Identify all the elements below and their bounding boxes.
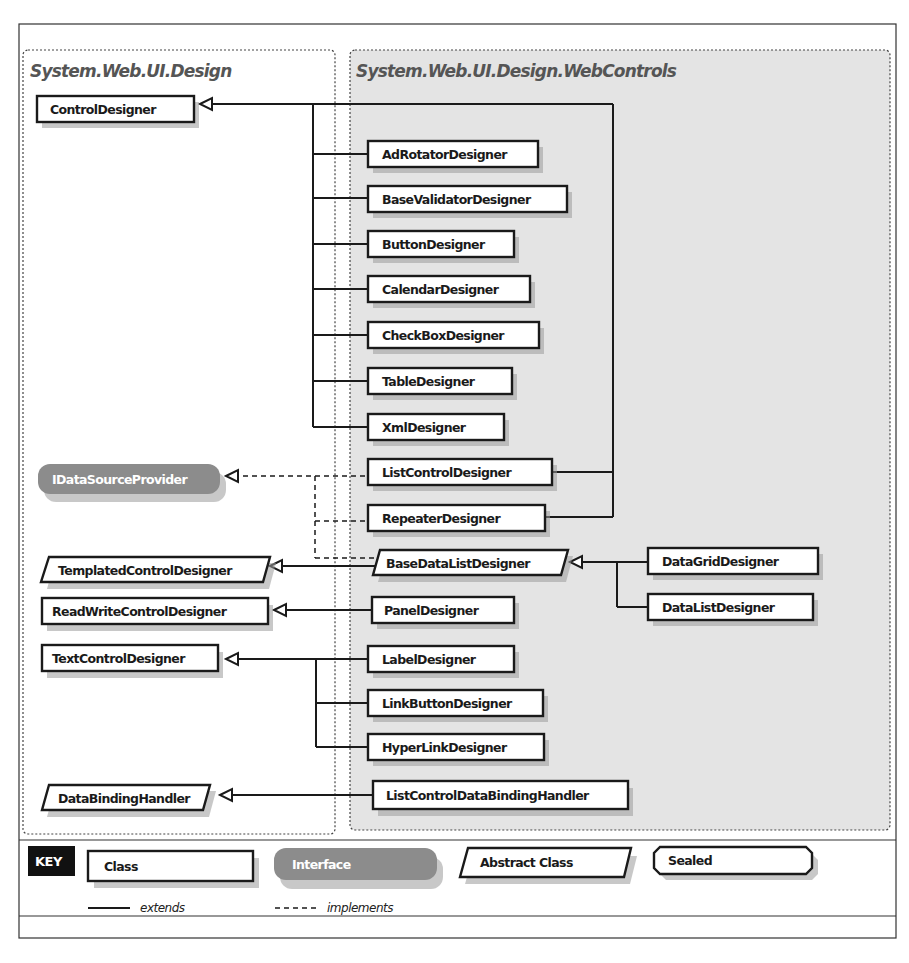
class-calendar-designer: CalendarDesigner	[368, 276, 535, 308]
svg-text:TemplatedControlDesigner: TemplatedControlDesigner	[58, 563, 233, 578]
class-button-designer: ButtonDesigner	[368, 231, 519, 263]
class-data-list-designer: DataListDesigner	[648, 594, 818, 626]
svg-text:Sealed: Sealed	[668, 853, 712, 868]
class-base-validator-designer: BaseValidatorDesigner	[368, 186, 572, 218]
svg-text:LinkButtonDesigner: LinkButtonDesigner	[382, 696, 513, 711]
svg-text:BaseDataListDesigner: BaseDataListDesigner	[386, 556, 531, 571]
package-left-title: System.Web.UI.Design	[30, 61, 232, 81]
svg-text:CheckBoxDesigner: CheckBoxDesigner	[382, 328, 505, 343]
svg-text:PanelDesigner: PanelDesigner	[384, 603, 480, 618]
class-label-designer: LabelDesigner	[368, 646, 519, 678]
svg-text:CalendarDesigner: CalendarDesigner	[382, 282, 500, 297]
svg-text:RepeaterDesigner: RepeaterDesigner	[382, 511, 501, 526]
svg-text:DataBindingHandler: DataBindingHandler	[58, 791, 191, 806]
class-hyperlink-designer: HyperLinkDesigner	[368, 734, 549, 766]
package-right-title: System.Web.UI.Design.WebControls	[356, 61, 677, 81]
class-link-button-designer: LinkButtonDesigner	[368, 690, 548, 722]
class-list-control-data-binding-handler: ListControlDataBindingHandler	[373, 781, 633, 816]
abstract-class-data-binding-handler: DataBindingHandler	[42, 785, 216, 817]
legend-abstract-class: Abstract Class	[460, 848, 637, 884]
svg-text:LabelDesigner: LabelDesigner	[382, 652, 477, 667]
legend-sealed: Sealed	[654, 847, 818, 880]
class-text-control-designer: TextControlDesigner	[42, 645, 223, 678]
class-xml-designer: XmlDesigner	[368, 414, 509, 446]
legend-interface: Interface	[274, 848, 443, 889]
svg-text:Interface: Interface	[292, 857, 351, 872]
svg-text:ControlDesigner: ControlDesigner	[50, 102, 157, 117]
abstract-class-base-data-list-designer: BaseDataListDesigner	[373, 550, 573, 582]
legend-extends-label: extends	[140, 901, 185, 915]
svg-text:IDataSourceProvider: IDataSourceProvider	[52, 472, 188, 487]
svg-text:TableDesigner: TableDesigner	[382, 374, 476, 389]
svg-text:BaseValidatorDesigner: BaseValidatorDesigner	[382, 192, 532, 207]
class-ad-rotator-designer: AdRotatorDesigner	[368, 141, 543, 173]
svg-text:Abstract Class: Abstract Class	[480, 855, 573, 870]
class-list-control-designer: ListControlDesigner	[368, 459, 557, 491]
svg-text:DataListDesigner: DataListDesigner	[662, 600, 776, 615]
legend-class: Class	[88, 851, 259, 888]
class-panel-designer: PanelDesigner	[372, 597, 519, 629]
svg-text:ReadWriteControlDesigner: ReadWriteControlDesigner	[52, 604, 228, 619]
key-title: KEY	[35, 854, 63, 869]
class-hierarchy-diagram: System.Web.UI.Design System.Web.UI.Desig…	[0, 0, 909, 963]
interface-idatasource-provider: IDataSourceProvider	[38, 464, 226, 502]
class-repeater-designer: RepeaterDesigner	[368, 505, 550, 537]
svg-text:ButtonDesigner: ButtonDesigner	[382, 237, 486, 252]
package-left	[23, 50, 335, 834]
svg-text:ListControlDesigner: ListControlDesigner	[382, 465, 512, 480]
svg-text:TextControlDesigner: TextControlDesigner	[52, 651, 186, 666]
class-table-designer: TableDesigner	[368, 368, 517, 400]
svg-text:Class: Class	[104, 859, 138, 874]
svg-text:DataGridDesigner: DataGridDesigner	[662, 554, 780, 569]
class-read-write-control-designer: ReadWriteControlDesigner	[42, 598, 273, 631]
svg-text:XmlDesigner: XmlDesigner	[382, 420, 467, 435]
class-control-designer: ControlDesigner	[37, 96, 199, 128]
class-checkbox-designer: CheckBoxDesigner	[368, 322, 544, 354]
svg-text:HyperLinkDesigner: HyperLinkDesigner	[382, 740, 508, 755]
legend-implements-label: implements	[327, 901, 393, 915]
svg-text:ListControlDataBindingHandler: ListControlDataBindingHandler	[386, 788, 590, 803]
abstract-class-templated-control-designer: TemplatedControlDesigner	[41, 557, 276, 589]
class-data-grid-designer: DataGridDesigner	[648, 548, 823, 580]
svg-text:AdRotatorDesigner: AdRotatorDesigner	[382, 147, 508, 162]
